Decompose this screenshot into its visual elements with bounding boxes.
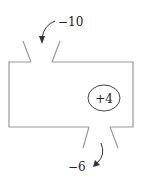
container-box	[9, 62, 89, 127]
outlet-right-wall	[110, 127, 118, 148]
inlet-right-wall	[52, 41, 60, 62]
flow-diagram: −10 +4 −6	[0, 0, 141, 189]
inflow-arrow-icon	[42, 21, 55, 38]
inlet-left-wall	[23, 41, 31, 62]
inflow-label: −10	[58, 15, 83, 29]
outflow-label: −6	[68, 160, 86, 174]
inside-label: +4	[95, 92, 113, 106]
inflow-arrowhead-icon	[39, 36, 45, 44]
outflow-arrow-icon	[97, 143, 103, 163]
container-box-right	[52, 62, 133, 127]
outlet-left-wall	[83, 127, 89, 148]
